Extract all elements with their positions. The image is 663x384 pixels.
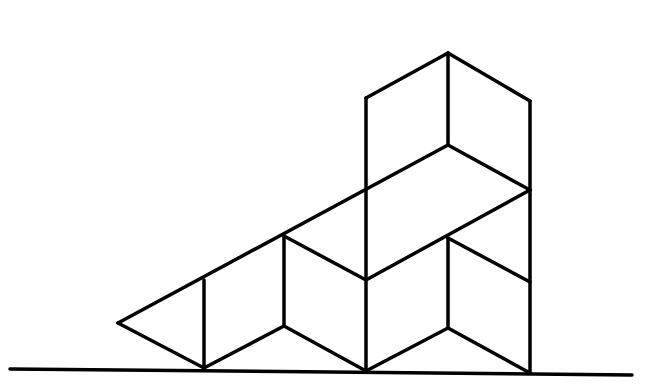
edge-line	[284, 236, 366, 280]
isometric-block-diagram	[0, 0, 663, 384]
edge-line	[448, 145, 530, 190]
edge-line	[118, 323, 204, 368]
block-drawing	[0, 0, 663, 384]
edge-line	[448, 328, 530, 373]
edge-line	[448, 238, 530, 282]
ground-line	[10, 369, 632, 375]
edge-line	[204, 326, 284, 368]
edge-line	[448, 53, 530, 101]
edge-line	[366, 328, 448, 371]
edge-line	[366, 53, 448, 98]
edge-line	[284, 326, 366, 371]
